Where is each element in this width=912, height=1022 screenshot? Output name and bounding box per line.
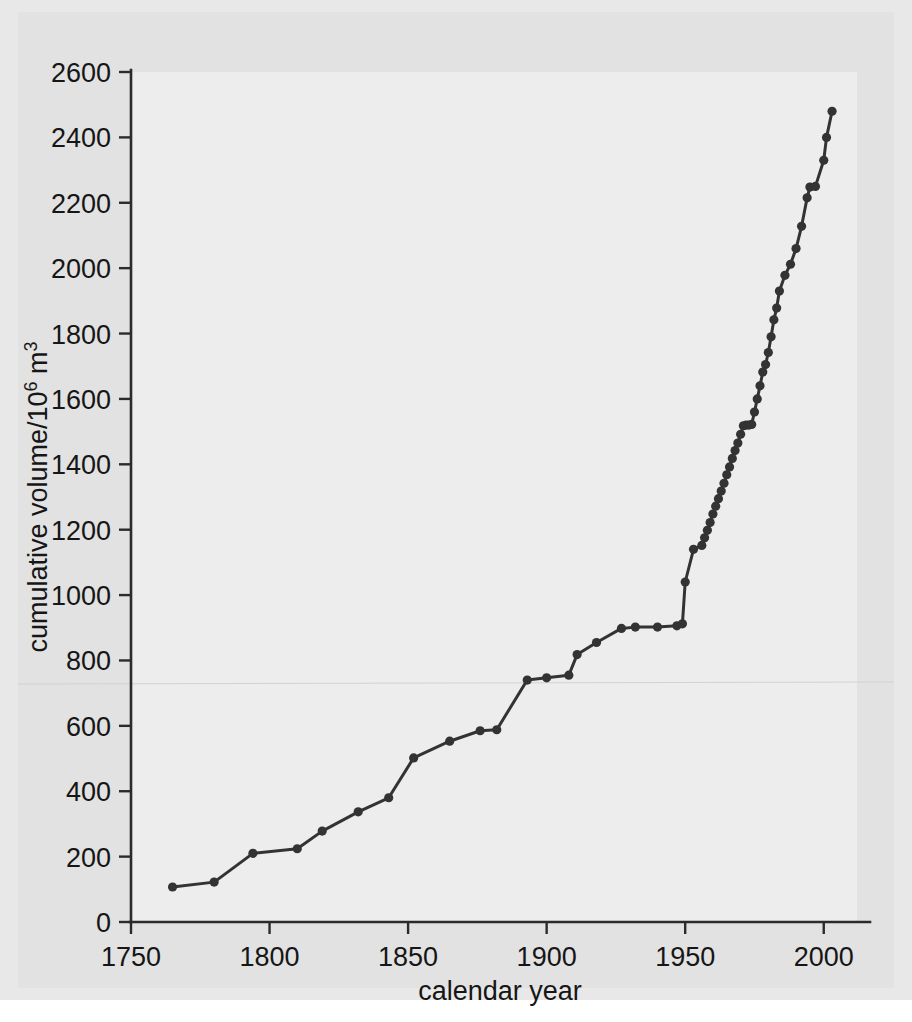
data-point — [564, 671, 573, 680]
data-point — [573, 650, 582, 659]
data-point — [409, 753, 418, 762]
x-tick-label: 1850 — [378, 942, 438, 972]
x-axis-ticks: 175018001850190019502000 — [101, 922, 854, 972]
y-tick-label: 600 — [66, 712, 111, 742]
y-tick-label: 1400 — [51, 450, 111, 480]
x-tick-label: 1800 — [240, 942, 300, 972]
y-tick-label: 2600 — [51, 58, 111, 88]
x-tick-label: 1950 — [655, 942, 715, 972]
y-tick-label: 2200 — [51, 189, 111, 219]
data-point — [617, 624, 626, 633]
data-point — [354, 807, 363, 816]
y-axis-title-main: cumulative volume/10 — [23, 391, 53, 652]
data-point — [168, 882, 177, 891]
data-point — [703, 526, 712, 535]
data-point — [797, 222, 806, 231]
data-point — [653, 623, 662, 632]
data-point — [293, 844, 302, 853]
y-tick-label: 800 — [66, 646, 111, 676]
data-point — [722, 470, 731, 479]
data-point — [736, 430, 745, 439]
data-point — [492, 725, 501, 734]
y-tick-label: 400 — [66, 777, 111, 807]
data-point — [811, 182, 820, 191]
data-point — [733, 438, 742, 447]
data-point — [689, 545, 698, 554]
y-tick-label: 2400 — [51, 123, 111, 153]
data-point — [775, 286, 784, 295]
data-point — [761, 360, 770, 369]
y-tick-label: 200 — [66, 843, 111, 873]
data-point — [769, 315, 778, 324]
data-point — [755, 381, 764, 390]
svg-text:cumulative volume/106 m3: cumulative volume/106 m3 — [21, 341, 53, 652]
data-point — [210, 878, 219, 887]
data-point — [681, 577, 690, 586]
data-point — [678, 619, 687, 628]
data-point — [827, 107, 836, 116]
data-point — [445, 737, 454, 746]
data-point — [384, 793, 393, 802]
y-axis-title-exponent: 6 — [21, 381, 41, 391]
data-point — [780, 271, 789, 280]
plot-area-background — [131, 72, 857, 922]
data-point — [719, 479, 728, 488]
x-axis-title: calendar year — [418, 976, 582, 1006]
data-point — [728, 454, 737, 463]
y-axis-title: cumulative volume/106 m3 — [21, 341, 53, 652]
data-point — [772, 303, 781, 312]
data-point — [747, 420, 756, 429]
data-point — [822, 133, 831, 142]
data-point — [248, 849, 257, 858]
y-tick-label: 0 — [96, 908, 111, 938]
data-point — [725, 462, 734, 471]
data-point — [717, 487, 726, 496]
data-point — [786, 260, 795, 269]
data-point — [819, 156, 828, 165]
y-tick-label: 1600 — [51, 385, 111, 415]
data-point — [753, 394, 762, 403]
data-point — [631, 623, 640, 632]
data-point — [764, 348, 773, 357]
y-axis-title-unit: m — [23, 351, 53, 381]
x-tick-label: 1750 — [101, 942, 161, 972]
y-axis-ticks: 0200400600800100012001400160018002000220… — [51, 58, 131, 938]
data-point — [592, 638, 601, 647]
data-point — [750, 407, 759, 416]
x-tick-label: 2000 — [794, 942, 854, 972]
data-point — [766, 332, 775, 341]
data-point — [706, 518, 715, 527]
data-point — [523, 675, 532, 684]
x-tick-label: 1900 — [517, 942, 577, 972]
data-point — [476, 726, 485, 735]
line-chart: 0200400600800100012001400160018002000220… — [0, 0, 912, 1022]
y-axis-title-unit-exponent: 3 — [21, 341, 41, 351]
y-tick-label: 1200 — [51, 516, 111, 546]
y-tick-label: 2000 — [51, 254, 111, 284]
figure-container: 0200400600800100012001400160018002000220… — [0, 0, 912, 1022]
data-point — [791, 244, 800, 253]
data-point — [803, 193, 812, 202]
data-point — [318, 827, 327, 836]
y-tick-label: 1800 — [51, 320, 111, 350]
data-point — [708, 509, 717, 518]
y-tick-label: 1000 — [51, 581, 111, 611]
data-point — [542, 673, 551, 682]
